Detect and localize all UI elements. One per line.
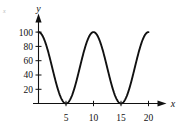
y-tick-label-60: 60: [24, 56, 34, 66]
corner-artifact-mark: x: [2, 8, 6, 14]
x-tick-label-10: 10: [89, 113, 99, 123]
x-axis-label: x: [170, 98, 176, 109]
x-tick-label-20: 20: [144, 113, 154, 123]
x-tick-label-15: 15: [116, 113, 126, 123]
y-tick-label-80: 80: [24, 42, 34, 52]
y-tick-label-40: 40: [24, 70, 34, 80]
x-axis-arrow-icon: [158, 100, 167, 106]
cosine-curve: [39, 32, 149, 103]
x-tick-label-5: 5: [64, 113, 69, 123]
cosine-wave-plot: x 100 80 60 40 20 5 10 15 20 y x: [0, 0, 178, 129]
graph-figure: x 100 80 60 40 20 5 10 15 20 y x: [0, 0, 178, 129]
y-tick-label-20: 20: [24, 85, 34, 95]
y-tick-label-100: 100: [19, 28, 34, 38]
y-axis-arrow-icon: [35, 14, 41, 23]
y-axis-label: y: [35, 3, 41, 14]
